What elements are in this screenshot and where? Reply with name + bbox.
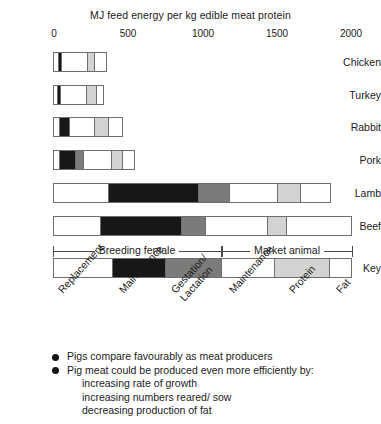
bar-segment-beef-2	[182, 217, 206, 235]
row-label-rabbit: Rabbit	[334, 121, 381, 133]
bar-segment-rabbit-3	[70, 118, 95, 136]
chart-figure: MJ feed energy per kg edible meat protei…	[0, 0, 381, 424]
bar-segment-lamb-3	[230, 184, 278, 202]
chart-title: MJ feed energy per kg edible meat protei…	[0, 9, 381, 21]
bracket-cap-right	[352, 246, 353, 257]
bar-segment-pork-5	[123, 151, 134, 169]
summary-notes: Pigs compare favourably as meat producer…	[52, 350, 372, 418]
bar-segment-beef-4	[268, 217, 288, 235]
stacked-bar-beef	[53, 216, 352, 236]
bar-segment-beef-0	[54, 217, 101, 235]
bar-row-lamb: Lamb	[0, 183, 381, 203]
bar-segment-rabbit-1	[60, 118, 70, 136]
bar-segment-rabbit-4	[95, 118, 109, 136]
note-sub-1: increasing rate of growth	[52, 377, 372, 391]
bullet-icon	[52, 354, 59, 361]
bar-segment-beef-3	[206, 217, 268, 235]
stacked-bar-turkey	[53, 85, 104, 105]
bar-row-beef: Beef	[0, 216, 381, 236]
row-label-turkey: Turkey	[334, 89, 381, 101]
bar-segment-chicken-3	[62, 53, 88, 71]
row-label-pork: Pork	[334, 154, 381, 166]
x-axis-tick-labels: 0 500 1000 1500 2000	[0, 28, 381, 42]
bar-segment-chicken-5	[95, 53, 106, 71]
key-label-fat: Fat	[334, 277, 353, 296]
note-sub-3: decreasing production of fat	[52, 404, 372, 418]
bar-segment-pork-1	[60, 151, 77, 169]
bar-segment-beef-1	[101, 217, 182, 235]
bar-segment-turkey-3	[61, 86, 86, 104]
bar-segment-pork-3	[84, 151, 112, 169]
bar-segment-beef-5	[287, 217, 351, 235]
bar-segment-pork-4	[112, 151, 123, 169]
x-tick-1000: 1000	[192, 28, 214, 39]
bar-segment-turkey-5	[97, 86, 103, 104]
bar-segment-lamb-5	[301, 184, 330, 202]
stacked-bar-chicken	[53, 52, 107, 72]
x-tick-2000: 2000	[340, 28, 362, 39]
bullet-icon	[52, 367, 59, 374]
x-tick-1500: 1500	[266, 28, 288, 39]
bar-segment-pork-2	[76, 151, 83, 169]
bar-segment-lamb-4	[278, 184, 301, 202]
bracket-label-breeding-female: Breeding female	[95, 244, 179, 257]
note-bullet-2-row: Pig meat could be produced even more eff…	[52, 364, 372, 378]
bar-segment-lamb-0	[54, 184, 109, 202]
bracket-cap-left	[53, 246, 54, 257]
bar-segment-key-5	[330, 259, 351, 277]
bar-segment-rabbit-5	[109, 118, 122, 136]
row-label-chicken: Chicken	[334, 56, 381, 68]
x-tick-500: 500	[120, 28, 137, 39]
bracket-divider	[221, 246, 223, 257]
row-label-lamb: Lamb	[334, 187, 381, 199]
bar-row-turkey: Turkey	[0, 85, 381, 105]
bar-row-rabbit: Rabbit	[0, 117, 381, 137]
note-sub-2: increasing numbers reared/ sow	[52, 391, 372, 405]
note-bullet-2-text: Pig meat could be produced even more eff…	[67, 364, 314, 376]
key-segment-labels: Replacement Maintenance Gestation/Lactat…	[0, 288, 381, 350]
bar-row-chicken: Chicken	[0, 52, 381, 72]
bar-segment-lamb-1	[109, 184, 199, 202]
bar-row-pork: Pork	[0, 150, 381, 170]
note-bullet-1-text: Pigs compare favourably as meat producer…	[67, 350, 272, 362]
stacked-bar-rabbit	[53, 117, 123, 137]
stacked-bar-lamb	[53, 183, 331, 203]
stacked-bar-pork	[53, 150, 135, 170]
bar-segment-lamb-2	[199, 184, 231, 202]
bar-segment-turkey-4	[87, 86, 97, 104]
x-tick-0: 0	[51, 28, 57, 39]
note-bullet-1-row: Pigs compare favourably as meat producer…	[52, 350, 372, 364]
